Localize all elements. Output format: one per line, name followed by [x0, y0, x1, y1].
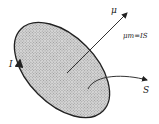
diagram-canvas: μ μm=IS S I: [0, 0, 159, 124]
moment-label: μ: [111, 5, 117, 15]
current-label: I: [8, 59, 13, 69]
formula-label: μm=IS: [123, 32, 148, 40]
current-direction-arrow-icon: [19, 60, 20, 67]
area-label: S: [143, 85, 149, 95]
